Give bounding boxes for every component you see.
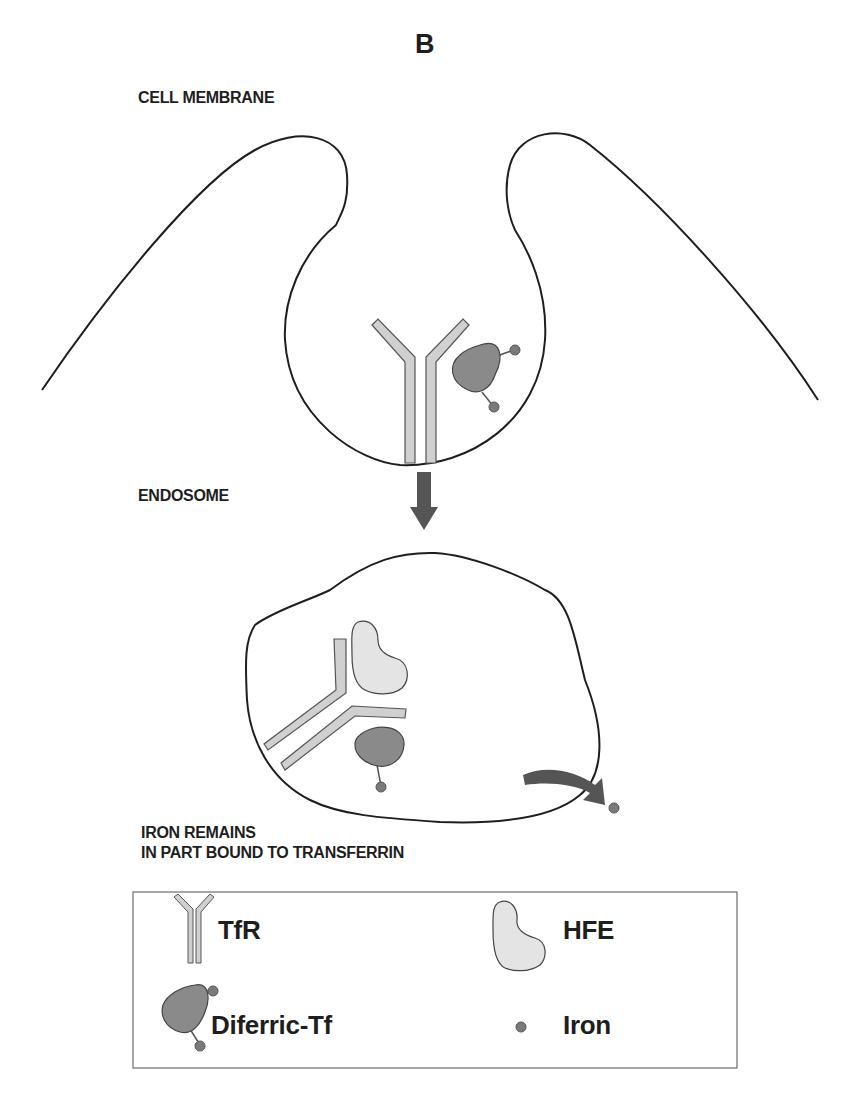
- tfr-receptor-icon: [174, 894, 214, 963]
- legend-label-iron: Iron: [563, 1010, 611, 1041]
- tf-in-endosome: [355, 727, 404, 792]
- iron-dot-icon: [516, 1022, 526, 1032]
- legend-label-tfr: TfR: [218, 915, 260, 946]
- iron-exit-arrow-icon: [523, 770, 605, 805]
- iron-remains-label-line1: IRON REMAINS: [141, 824, 256, 842]
- diferric-tf-in-pit: [452, 343, 520, 412]
- hfe-protein-icon: [493, 901, 545, 971]
- down-arrow-icon: [410, 472, 438, 530]
- diferric-tf-icon: [162, 985, 218, 1051]
- panel-letter: B: [415, 29, 435, 60]
- tfr-in-pit: [372, 319, 469, 463]
- cell-membrane-label: CELL MEMBRANE: [138, 89, 274, 107]
- iron-remains-label-line2: IN PART BOUND TO TRANSFERRIN: [141, 844, 404, 862]
- legend-label-hfe: HFE: [563, 915, 614, 946]
- endosome-label: ENDOSOME: [138, 487, 229, 505]
- legend-label-diferric-tf: Diferric-Tf: [211, 1010, 332, 1041]
- endocytosis-diagram: [0, 0, 854, 1093]
- hfe-in-endosome: [352, 621, 408, 694]
- free-iron-dot: [609, 803, 619, 813]
